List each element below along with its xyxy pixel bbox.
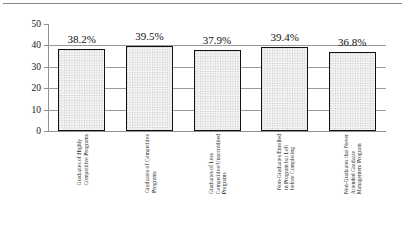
y-tick-label-0: 0	[0, 126, 41, 136]
x-category-label-5: Non-Graduates that NeverAttended Graduat…	[343, 134, 363, 194]
y-tick-label-50: 50	[0, 19, 41, 29]
data-label-3: 37.9%	[187, 35, 247, 46]
bar-1	[58, 49, 105, 131]
x-category-label-line: Programs	[221, 134, 228, 194]
y-tick-label-10: 10	[0, 105, 41, 115]
x-category-label-line: in Program but Left	[282, 134, 289, 190]
bar-chart-figure: 50403020100 38.2%39.5%37.9%39.4%36.8% Gr…	[0, 0, 407, 226]
data-label-2: 39.5%	[119, 31, 179, 42]
y-tick-label-20: 20	[0, 83, 41, 93]
y-tick-label-30: 30	[0, 62, 41, 72]
y-tick-0	[44, 131, 48, 132]
x-category-label-1: Graduates of HighlyCompetitive Programs	[76, 134, 89, 186]
x-category-label-4: Non-Graduates Enrolledin Program but Lef…	[276, 134, 296, 190]
x-category-label-line: Competitive Programs	[83, 134, 90, 186]
x-category-label-3: Graduates of LessCompetitive/Unaccredite…	[208, 134, 228, 194]
x-category-label-line: Management Program	[356, 134, 363, 194]
data-label-4: 39.4%	[255, 32, 315, 43]
x-category-label-line: before Completing	[289, 134, 296, 190]
bar-5	[329, 52, 376, 131]
bar-4	[261, 47, 308, 131]
x-category-label-line: Programs	[150, 134, 157, 193]
y-tick-label-40: 40	[0, 40, 41, 50]
gridline-0	[48, 131, 386, 132]
data-label-1: 38.2%	[52, 34, 112, 45]
x-category-label-line: Non-Graduates Enrolled	[276, 134, 283, 190]
x-category-label-2: Graduates of CompetitivePrograms	[144, 134, 157, 193]
data-label-5: 36.8%	[322, 37, 382, 48]
figure-top-rule	[3, 3, 402, 4]
bar-2	[126, 46, 173, 131]
x-category-label-line: Graduates of Competitive	[144, 134, 151, 193]
bar-3	[194, 50, 241, 131]
